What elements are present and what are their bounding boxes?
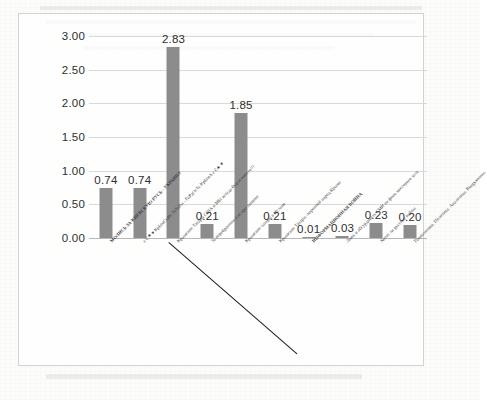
y-tick-6: 0.00 (41, 232, 85, 244)
y-tick-3: 1.50 (41, 131, 85, 143)
bar-value-label: 0.74 (128, 174, 151, 186)
chart-frame: 3.00 2.50 2.00 1.50 1.00 0.50 0.00 0.740… (18, 13, 424, 366)
bar-value-label: 0.74 (94, 174, 117, 186)
y-tick-2: 2.00 (41, 97, 85, 109)
y-tick-1: 2.50 (41, 64, 85, 76)
bar[interactable] (99, 188, 112, 238)
x-axis-line (89, 238, 427, 239)
category-axis-labels: МОЛИСЬ ЗА КИЕВСКУЮ РУСЬ - УКРАИНУє С★ ♥ … (89, 240, 427, 370)
y-tick-0: 3.00 (41, 30, 85, 42)
y-axis: 3.00 2.50 2.00 1.50 1.00 0.50 0.00 (37, 36, 85, 238)
y-tick-5: 0.50 (41, 198, 85, 210)
bar[interactable] (201, 224, 214, 238)
bar-value-label: 1.85 (229, 99, 252, 111)
bar[interactable] (370, 223, 383, 238)
bar[interactable] (404, 225, 417, 238)
bar-slot: 0.74 (89, 36, 123, 238)
y-tick-4: 1.00 (41, 165, 85, 177)
bar-value-label: 0.03 (331, 222, 354, 234)
bar-value-label: 2.83 (162, 33, 185, 45)
bar[interactable] (268, 224, 281, 238)
